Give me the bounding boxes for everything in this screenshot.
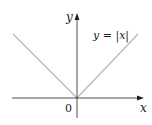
chart: y x 0 y = |x|	[0, 0, 152, 125]
curve-left-branch	[13, 34, 77, 98]
x-axis-label: x	[140, 101, 147, 115]
curve-right-branch	[77, 34, 138, 98]
origin-label: 0	[65, 102, 72, 115]
curve-label: y = |x|	[92, 29, 129, 43]
y-axis-arrow-icon	[75, 13, 80, 20]
y-axis-label: y	[65, 10, 73, 24]
x-axis-arrow-icon	[137, 96, 144, 101]
